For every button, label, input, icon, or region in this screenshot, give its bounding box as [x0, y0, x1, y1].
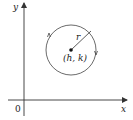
radius-label: r	[76, 32, 81, 42]
radius-line	[71, 31, 91, 50]
center-label: (h, k)	[63, 53, 87, 63]
x-axis-label: x	[121, 104, 126, 114]
origin-label: 0	[15, 104, 21, 114]
circle-diagram: y x 0 r (h, k)	[0, 0, 133, 120]
circle-arrow-left-icon	[48, 33, 51, 37]
center-point	[69, 48, 73, 52]
y-axis-label: y	[12, 2, 19, 12]
